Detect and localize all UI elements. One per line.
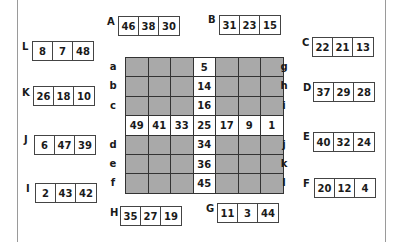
grid-cell-empty <box>149 174 171 192</box>
clue-box-cell: 15 <box>260 16 280 34</box>
box-label-i: I <box>26 184 30 194</box>
grid-cell-empty <box>239 174 261 192</box>
clue-box-cell: 10 <box>74 87 94 105</box>
clue-box-cell: 28 <box>354 83 374 101</box>
clue-box-cell: 21 <box>333 38 353 56</box>
grid-cell-empty <box>239 97 261 115</box>
clue-box-cell: 11 <box>218 204 238 222</box>
left-border-line <box>17 0 18 242</box>
clue-box-cell: 32 <box>334 133 354 151</box>
grid-cell-empty <box>126 174 148 192</box>
grid-cell-empty <box>216 97 238 115</box>
box-label-e: E <box>303 132 310 142</box>
grid-cell-empty <box>126 58 148 76</box>
grid-cell-number: 5 <box>194 58 216 76</box>
grid-cell-empty <box>171 155 193 173</box>
clue-box-cell: 12 <box>335 179 355 197</box>
grid-cell-empty <box>239 155 261 173</box>
grid-cell-number: 16 <box>194 97 216 115</box>
row-label-j: j <box>279 139 289 150</box>
grid-cell-number: 41 <box>149 116 171 134</box>
grid-cell-empty <box>149 97 171 115</box>
row-label-c: c <box>108 100 118 111</box>
clue-box-cell: 31 <box>220 16 240 34</box>
clue-box-cell: 29 <box>334 83 354 101</box>
grid-cell-empty <box>171 58 193 76</box>
grid-cell-empty <box>126 97 148 115</box>
clue-box-cell: 23 <box>240 16 260 34</box>
box-label-d: D <box>303 83 311 93</box>
box-label-a: A <box>107 17 115 27</box>
grid-cell-number: 34 <box>194 136 216 154</box>
clue-box-cell: 26 <box>34 87 54 105</box>
row-label-e: e <box>108 158 118 169</box>
clue-box-cell: 7 <box>53 42 73 60</box>
clue-box-cell: 19 <box>161 207 181 225</box>
clue-box-g: 11344 <box>217 203 279 223</box>
grid-cell-empty <box>171 136 193 154</box>
clue-box-l: 8748 <box>32 41 94 61</box>
box-label-g: G <box>206 204 214 214</box>
row-label-f: f <box>108 177 118 188</box>
box-label-c: C <box>302 38 309 48</box>
clue-box-cell: 27 <box>141 207 161 225</box>
clue-box-cell: 43 <box>56 184 76 202</box>
clue-box-cell: 37 <box>314 83 334 101</box>
grid-cell-number: 33 <box>171 116 193 134</box>
clue-box-cell: 35 <box>121 207 141 225</box>
grid-cell-number: 36 <box>194 155 216 173</box>
grid-cell-number: 9 <box>239 116 261 134</box>
clue-box-e: 403224 <box>313 132 375 152</box>
clue-box-c: 222113 <box>312 37 374 57</box>
row-label-l: l <box>279 177 289 188</box>
box-label-b: B <box>208 15 216 25</box>
grid-cell-empty <box>216 136 238 154</box>
box-label-f: F <box>303 179 310 189</box>
clue-box-cell: 4 <box>355 179 375 197</box>
clue-box-f: 20124 <box>314 178 376 198</box>
grid-cell-empty <box>216 155 238 173</box>
puzzle-grid: 51416494133251791343645 <box>125 57 284 194</box>
clue-box-cell: 30 <box>159 17 179 35</box>
clue-box-cell: 24 <box>354 133 374 151</box>
grid-cell-empty <box>126 136 148 154</box>
grid-cell-empty <box>149 155 171 173</box>
grid-cell-number: 49 <box>126 116 148 134</box>
clue-box-cell: 22 <box>313 38 333 56</box>
clue-box-cell: 20 <box>315 179 335 197</box>
grid-cell-number: 45 <box>194 174 216 192</box>
clue-box-a: 463830 <box>118 16 180 36</box>
box-label-k: K <box>22 88 30 98</box>
grid-cell-empty <box>216 58 238 76</box>
clue-box-cell: 3 <box>238 204 258 222</box>
clue-box-cell: 47 <box>55 136 75 154</box>
row-label-d: d <box>108 139 118 150</box>
box-label-h: H <box>110 208 118 218</box>
clue-box-cell: 8 <box>33 42 53 60</box>
grid-cell-empty <box>149 136 171 154</box>
grid-cell-empty <box>171 174 193 192</box>
row-label-a: a <box>108 61 118 72</box>
row-label-h: h <box>279 80 289 91</box>
grid-cell-empty <box>126 155 148 173</box>
clue-box-cell: 6 <box>35 136 55 154</box>
grid-cell-empty <box>216 77 238 95</box>
row-label-i: i <box>279 100 289 111</box>
clue-box-cell: 38 <box>139 17 159 35</box>
clue-box-i: 24342 <box>35 183 97 203</box>
grid-cell-empty <box>216 174 238 192</box>
clue-box-cell: 44 <box>258 204 278 222</box>
right-border-line <box>385 0 386 242</box>
box-label-l: L <box>22 42 28 52</box>
clue-box-h: 352719 <box>120 206 182 226</box>
grid-cell-empty <box>126 77 148 95</box>
grid-cell-empty <box>239 58 261 76</box>
row-label-b: b <box>108 80 118 91</box>
grid-cell-number: 14 <box>194 77 216 95</box>
clue-box-cell: 40 <box>314 133 334 151</box>
grid-cell-number: 1 <box>261 116 283 134</box>
clue-box-cell: 42 <box>76 184 96 202</box>
grid-cell-number: 17 <box>216 116 238 134</box>
clue-box-b: 312315 <box>219 15 281 35</box>
grid-cell-empty <box>171 97 193 115</box>
